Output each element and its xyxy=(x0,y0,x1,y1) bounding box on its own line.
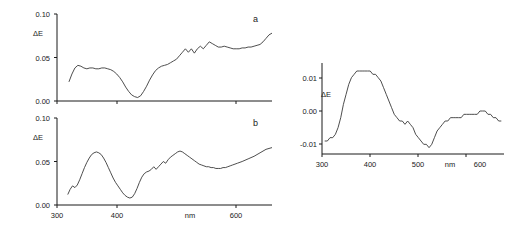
panel-c-xtick-3: 600 xyxy=(474,160,487,169)
panel-c-ytick-2: -0.01 xyxy=(300,140,317,149)
panel-a-letter: a xyxy=(253,14,258,24)
panel-b-ytick-1: 0.05 xyxy=(35,158,50,167)
panel-b-y-axis-label: ΔE xyxy=(33,133,43,142)
panel-c-curve xyxy=(325,71,502,148)
panel-a-ytick-0: 0.10 xyxy=(35,10,50,19)
panel-b-ytick-0: 0.10 xyxy=(35,114,50,123)
panel-b-xtick-0: 300 xyxy=(51,211,64,220)
panel-c-xtick-0: 300 xyxy=(316,160,329,169)
panel-b-xtick-2: 600 xyxy=(230,211,243,220)
panel-b-curve xyxy=(68,148,272,198)
panel-b-x-axis-label: nm xyxy=(185,211,195,220)
panel-c-y-axis-label: ΔE xyxy=(321,90,331,99)
right-figure-svg: 0.01 0.00 -0.01 ΔE 300 400 500 600 nm xyxy=(290,0,529,227)
panel-a-ytick-1: 0.05 xyxy=(35,54,50,63)
left-figure-svg: 0.10 0.05 0.00 ΔE a 0.10 0.05 0.00 ΔE b … xyxy=(0,0,290,227)
panel-c-ytick-0: 0.01 xyxy=(302,74,317,83)
panel-c-x-axis-label: nm xyxy=(445,160,455,169)
panel-c-xtick-1: 400 xyxy=(364,160,377,169)
panel-c-ytick-1: 0.00 xyxy=(302,107,317,116)
panel-a-curve xyxy=(69,33,272,97)
panel-b-ytick-2: 0.00 xyxy=(35,201,50,210)
panel-a-y-axis-label: ΔE xyxy=(33,29,43,38)
panel-c-axes xyxy=(319,63,504,157)
right-figure: 0.01 0.00 -0.01 ΔE 300 400 500 600 nm xyxy=(290,0,529,227)
left-figure: 0.10 0.05 0.00 ΔE a 0.10 0.05 0.00 ΔE b … xyxy=(0,0,290,227)
panel-b-xtick-1: 400 xyxy=(111,211,124,220)
panel-a-axes xyxy=(54,14,272,104)
panel-b-letter: b xyxy=(253,118,258,128)
panel-a-ytick-2: 0.00 xyxy=(35,97,50,106)
panel-c-xtick-2: 500 xyxy=(412,160,425,169)
